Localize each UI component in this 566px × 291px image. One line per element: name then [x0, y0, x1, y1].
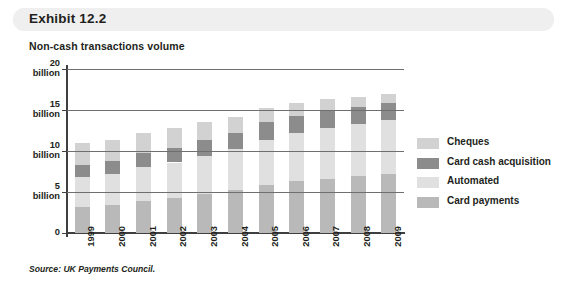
legend-item-automated: Automated: [417, 174, 562, 194]
bar-2002: [167, 128, 182, 233]
y-tick-label-0: 0: [4, 227, 60, 237]
gridline-5: [67, 192, 404, 193]
legend-label: Automated: [447, 175, 499, 186]
y-axis-labels: 05billion10billion15billion20billion: [0, 0, 60, 291]
legend-swatch-icon: [417, 197, 439, 208]
y-tick-label-10: 10billion: [4, 140, 60, 161]
bar-segment-card-cash-acquisition: [105, 161, 120, 174]
x-tick-label-2005: 2005: [270, 226, 280, 266]
y-tick-label-20: 20billion: [4, 58, 60, 79]
bar-segment-card-payments: [351, 176, 366, 233]
bar-segment-card-cash-acquisition: [197, 140, 212, 156]
bar-segment-card-payments: [381, 174, 396, 233]
bar-2007: [320, 99, 335, 233]
bar-segment-cheques: [351, 97, 366, 107]
legend-item-card-cash-acquisition: Card cash acquisition: [417, 155, 562, 175]
bar-segment-cheques: [381, 94, 396, 102]
bar-segment-automated: [381, 120, 396, 174]
x-tick-label-2009: 2009: [393, 226, 403, 266]
bar-segment-card-cash-acquisition: [259, 122, 274, 139]
y-tick-20: [62, 69, 67, 70]
bar-segment-card-cash-acquisition: [381, 103, 396, 120]
gridline-10: [67, 151, 404, 152]
legend-swatch-icon: [417, 177, 439, 188]
bar-segment-automated: [197, 156, 212, 194]
bar-2006: [289, 103, 304, 233]
bar-segment-card-cash-acquisition: [75, 165, 90, 177]
bar-segment-card-cash-acquisition: [320, 111, 335, 128]
bar-segment-cheques: [228, 117, 243, 133]
x-tick-label-2000: 2000: [117, 226, 127, 266]
bar-segment-card-payments: [320, 179, 335, 233]
bar-2000: [105, 140, 120, 233]
bar-segment-cheques: [75, 143, 90, 165]
x-tick-label-2001: 2001: [148, 226, 158, 266]
gridline-15: [67, 110, 404, 111]
bar-segment-automated: [228, 149, 243, 189]
bar-2005: [259, 108, 274, 233]
x-tick-label-2002: 2002: [178, 226, 188, 266]
legend-swatch-icon: [417, 158, 439, 169]
exhibit-figure: Exhibit 12.2 Non-cash transactions volum…: [0, 0, 566, 291]
y-tick-label-15: 15billion: [4, 99, 60, 120]
x-tick-label-2006: 2006: [301, 226, 311, 266]
legend-label: Card cash acquisition: [447, 156, 551, 167]
source-note: Source: UK Payments Council.: [29, 264, 155, 274]
x-tick-label-2008: 2008: [362, 226, 372, 266]
legend-label: Card payments: [447, 195, 519, 206]
legend-item-cheques: Cheques: [417, 135, 562, 155]
bar-segment-cheques: [197, 122, 212, 140]
bar-segment-automated: [320, 128, 335, 179]
gridline-20: [67, 69, 404, 70]
legend-item-card-payments: Card payments: [417, 194, 562, 214]
y-tick-10: [62, 151, 67, 152]
chart-legend: ChequesCard cash acquisitionAutomatedCar…: [417, 135, 562, 213]
bar-segment-automated: [289, 133, 304, 181]
bar-2004: [228, 117, 243, 233]
bar-2003: [197, 122, 212, 233]
bar-segment-card-cash-acquisition: [136, 153, 151, 167]
bar-2009: [381, 94, 396, 233]
x-tick-label-2003: 2003: [209, 226, 219, 266]
bar-2001: [136, 133, 151, 233]
bar-segment-cheques: [167, 128, 182, 148]
bar-segment-card-cash-acquisition: [228, 133, 243, 149]
bar-1999: [75, 143, 90, 233]
y-tick-15: [62, 110, 67, 111]
bar-2008: [351, 97, 366, 233]
bar-segment-automated: [136, 167, 151, 201]
y-tick-label-5: 5billion: [4, 181, 60, 202]
bar-segment-card-cash-acquisition: [167, 148, 182, 163]
bar-segment-automated: [259, 140, 274, 185]
bar-segment-card-cash-acquisition: [289, 116, 304, 133]
bar-segment-automated: [105, 174, 120, 205]
x-tick-label-2004: 2004: [240, 226, 250, 266]
legend-swatch-icon: [417, 138, 439, 149]
plot-area: [67, 69, 404, 233]
x-tick-label-2007: 2007: [331, 226, 341, 266]
x-tick-label-1999: 1999: [86, 226, 96, 266]
legend-label: Cheques: [447, 136, 489, 147]
y-tick-5: [62, 192, 67, 193]
